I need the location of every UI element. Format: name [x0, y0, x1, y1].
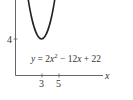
x-axis-label: x	[104, 70, 110, 81]
eq-x2: x	[76, 54, 82, 64]
eq-constant: 22	[91, 54, 101, 64]
eq-exponent: 2	[54, 52, 57, 59]
x-tick-label-5: 5	[56, 78, 61, 89]
eq-op1: −	[60, 54, 65, 64]
parabola-curve	[28, 0, 55, 39]
parabola-graph: 4 3 5 x y = 2x2 − 12x + 22	[0, 0, 133, 100]
eq-op2: +	[84, 54, 89, 64]
x-tick-label-3: 3	[39, 78, 44, 89]
eq-coef2: 12	[68, 54, 78, 64]
eq-equals: =	[38, 54, 43, 64]
y-tick-label-4: 4	[7, 34, 12, 45]
equation-label: y = 2x2 − 12x + 22	[30, 50, 101, 64]
eq-y: y	[30, 54, 36, 64]
